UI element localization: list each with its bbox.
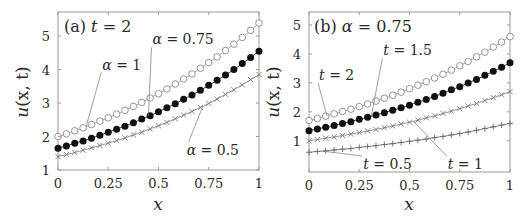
plus-marker: [306, 149, 312, 155]
filled-circle-marker: [63, 142, 70, 149]
x-marker: [215, 96, 220, 101]
filled-circle-marker: [406, 102, 413, 109]
x-marker: [457, 106, 462, 111]
x-marker: [81, 148, 86, 153]
open-circle-marker: [415, 82, 422, 89]
plus-marker: [323, 148, 329, 154]
x-marker: [474, 101, 479, 106]
filled-circle-marker: [414, 99, 421, 106]
filled-circle-marker: [306, 127, 313, 134]
x-marker: [156, 123, 161, 128]
y-tick-label: 4: [42, 63, 50, 78]
plus-marker: [398, 139, 404, 145]
y-tick-label: 5: [42, 29, 50, 44]
x-marker: [148, 126, 153, 131]
x-marker: [449, 109, 454, 114]
filled-circle-marker: [71, 140, 78, 147]
plus-marker: [340, 146, 346, 152]
x-marker: [181, 113, 186, 118]
filled-circle-marker: [431, 93, 438, 100]
filled-circle-marker: [498, 64, 505, 71]
open-circle-marker: [164, 86, 171, 93]
filled-circle-marker: [80, 137, 87, 144]
open-circle-marker: [490, 44, 497, 51]
x-marker: [223, 92, 228, 97]
filled-circle-marker: [473, 76, 480, 83]
filled-circle-marker: [55, 145, 62, 152]
plus-marker: [365, 144, 371, 150]
x-tick-label: 0.75: [194, 176, 223, 191]
annotation-label: t = 1.5: [383, 42, 432, 58]
x-marker: [114, 138, 119, 143]
x-marker: [139, 130, 144, 135]
open-circle-marker: [205, 59, 212, 66]
plus-marker: [415, 137, 421, 143]
plus-marker: [432, 135, 438, 141]
filled-circle-marker: [389, 107, 396, 114]
filled-circle-marker: [113, 126, 120, 133]
open-circle-marker: [331, 111, 338, 118]
filled-circle-marker: [155, 108, 162, 115]
leader-line: [318, 83, 327, 116]
x-marker: [97, 143, 102, 148]
open-circle-marker: [256, 20, 263, 27]
open-circle-marker: [364, 101, 371, 108]
x-tick-label: 0.75: [445, 178, 474, 193]
filled-circle-marker: [481, 72, 488, 79]
x-tick-label: 0.25: [345, 178, 374, 193]
open-circle-marker: [339, 108, 346, 115]
annotation-label: t = 0.5: [363, 156, 412, 172]
filled-circle-marker: [96, 132, 103, 139]
panel-b-xlabel: x: [404, 194, 414, 214]
x-tick-label: 1: [506, 178, 514, 193]
filled-circle-marker: [214, 77, 221, 84]
open-circle-marker: [172, 81, 179, 88]
annotation-label: t = 1: [448, 156, 483, 172]
open-circle-marker: [247, 27, 254, 34]
open-circle-marker: [222, 47, 229, 54]
panel-b-time-comparison: t = 2t = 1.5t = 0.5t = 1 00.250.50.75112…: [263, 12, 514, 214]
x-tick-label: 0: [305, 178, 313, 193]
open-circle-marker: [465, 58, 472, 65]
open-circle-marker: [155, 90, 162, 97]
open-circle-marker: [147, 95, 154, 102]
filled-circle-marker: [172, 100, 179, 107]
x-marker: [173, 116, 178, 121]
open-circle-marker: [381, 95, 388, 102]
open-circle-marker: [398, 89, 405, 96]
filled-circle-marker: [314, 125, 321, 132]
annotation-label: α = 0.75: [152, 31, 213, 47]
open-circle-marker: [63, 131, 70, 138]
plus-marker: [314, 148, 320, 154]
x-marker: [164, 120, 169, 125]
plus-marker: [473, 127, 479, 133]
open-circle-marker: [389, 92, 396, 99]
plus-marker: [490, 124, 496, 130]
leader-line: [148, 47, 151, 116]
open-circle-marker: [482, 49, 489, 56]
open-circle-marker: [71, 128, 78, 135]
annotation: t = 0.5: [323, 151, 412, 172]
filled-circle-marker: [465, 79, 472, 86]
leader-line: [414, 121, 447, 156]
plus-marker: [482, 126, 488, 132]
filled-circle-marker: [322, 124, 329, 131]
open-circle-marker: [97, 118, 104, 125]
x-marker: [499, 92, 504, 97]
x-marker: [64, 152, 69, 157]
filled-circle-marker: [205, 82, 212, 89]
filled-circle-marker: [105, 129, 112, 136]
annotation: α = 0.75: [148, 31, 213, 116]
filled-circle-marker: [256, 48, 263, 55]
annotation-label: α = 0.5: [187, 142, 239, 158]
open-circle-marker: [214, 54, 221, 61]
open-circle-marker: [473, 54, 480, 61]
filled-circle-marker: [222, 71, 229, 78]
x-marker: [206, 101, 211, 106]
leader-line: [371, 58, 382, 116]
x-tick-label: 0.25: [94, 176, 123, 191]
x-marker: [106, 141, 111, 146]
x-marker: [72, 150, 77, 155]
y-tick-label: 3: [293, 76, 301, 91]
open-circle-marker: [80, 125, 87, 132]
